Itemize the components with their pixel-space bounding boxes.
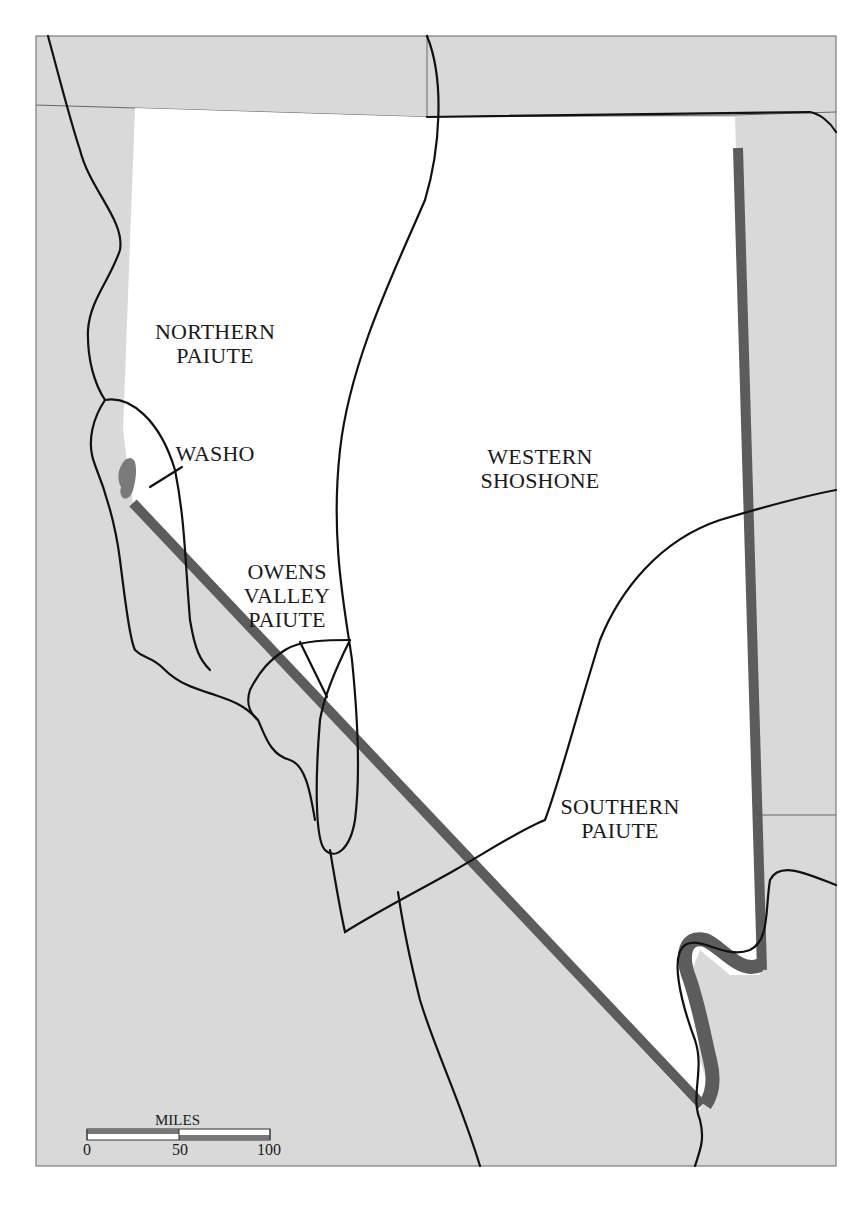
label-washo: WASHO: [160, 442, 270, 466]
scale-tick-0: 0: [83, 1141, 91, 1159]
label-southern-paiute: SOUTHERN PAIUTE: [545, 795, 695, 843]
label-owens-valley-paiute: OWENS VALLEY PAIUTE: [232, 560, 342, 632]
territory-map: [0, 0, 862, 1213]
label-western-shoshone: WESTERN SHOSHONE: [460, 445, 620, 493]
scale-tick-100: 100: [257, 1141, 281, 1159]
scale-tick-50: 50: [172, 1141, 188, 1159]
scale-bar: [87, 1129, 270, 1140]
scale-unit-label: MILES: [155, 1112, 200, 1129]
label-northern-paiute: NORTHERN PAIUTE: [145, 320, 285, 368]
